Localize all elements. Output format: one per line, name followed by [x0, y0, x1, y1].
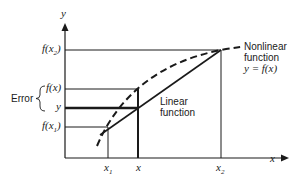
tick-f-x2: f(x2)	[42, 43, 61, 59]
y-axis-arrow-icon	[62, 23, 69, 31]
y-axis-label: y	[61, 8, 66, 19]
linear-function-line	[100, 50, 221, 135]
tick-x2: x2	[216, 162, 224, 178]
x-axis-arrow-icon	[281, 155, 289, 162]
x-axis-label: x	[270, 153, 275, 164]
tick-x1: x1	[104, 162, 112, 178]
tick-f-x1-fn: f(x	[42, 119, 54, 131]
tick-x1-sub: 1	[109, 168, 113, 176]
tick-x2-sub: 2	[221, 168, 225, 176]
tick-f-x1-close: )	[57, 119, 61, 131]
linear-label-line2: function	[160, 107, 195, 118]
diagram-canvas	[0, 0, 295, 183]
error-label: Error	[11, 93, 33, 104]
nonlinear-label-line3: y = f(x)	[244, 63, 277, 74]
tick-x: x	[136, 162, 141, 173]
tick-f-x1: f(x1)	[42, 120, 61, 136]
tick-y: y	[56, 101, 61, 112]
tick-f-x: f(x)	[46, 82, 61, 93]
tick-f-x2-fn: f(x	[42, 42, 54, 54]
linear-label-line1: Linear	[160, 96, 188, 107]
tick-f-x2-close: )	[57, 42, 61, 54]
nonlinear-label-line1: Nonlinear	[244, 41, 287, 52]
error-brace	[36, 86, 45, 111]
